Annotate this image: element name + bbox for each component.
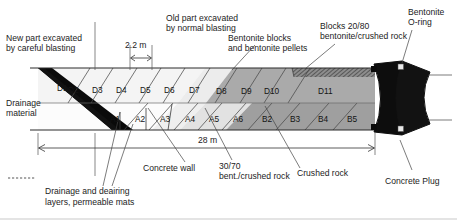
blocks-2080-band <box>292 68 375 77</box>
cell-label-a2: A2 <box>135 115 145 124</box>
cell-label-d4: D4 <box>116 86 127 95</box>
cell-label-a3: A3 <box>160 115 170 124</box>
cell-label-d2: D2 <box>68 86 79 95</box>
callout-concrete-plug: Concrete Plug <box>385 176 439 187</box>
callout-blocks-2080-line2: bentonite/crushed rock <box>320 31 407 42</box>
cell-label-d10: D10 <box>264 87 279 96</box>
callout-bent-3070-line2: bent./crushed rock <box>219 171 290 182</box>
cell-label-b3: B3 <box>290 115 300 124</box>
bentonite-o-ring-top <box>398 64 404 70</box>
callout-new-part-line1: New part excavated <box>6 33 82 44</box>
callout-drainage-material-line2: material <box>6 108 37 119</box>
callout-drainage-deairing-line1: Drainage and deairing <box>45 186 130 197</box>
cell-label-a1: A1 <box>110 115 120 124</box>
cell-label-d3: D3 <box>92 86 103 95</box>
cell-label-b2: B2 <box>262 115 272 124</box>
cell-label-d6: D6 <box>164 86 175 95</box>
callout-blocks-2080-line1: Blocks 20/80 <box>320 21 369 32</box>
dim-28m <box>39 145 375 152</box>
figure-canvas: New part excavated by careful blasting O… <box>0 0 457 223</box>
callout-drainage-material-line1: Drainage <box>6 98 41 109</box>
concrete-plug-shape <box>371 61 430 135</box>
callout-bentonite-oring-line1: Bentonite <box>408 7 444 18</box>
callout-bentonite-blocks-line2: and bentonite pellets <box>228 43 307 54</box>
cell-label-b4: B4 <box>318 115 328 124</box>
cell-label-a4: A4 <box>185 115 195 124</box>
cell-label-a6: A6 <box>233 115 243 124</box>
cell-label-d1: D1 <box>57 84 68 93</box>
dim-label-2-2m: 2.2 m <box>125 40 147 50</box>
callout-bentonite-oring-line2: O-ring <box>408 17 432 28</box>
callout-new-part-line2: by careful blasting <box>6 43 75 54</box>
dim-2-2m <box>131 55 152 61</box>
cell-label-b5: B5 <box>347 115 357 124</box>
cell-label-d9: D9 <box>241 87 252 96</box>
callout-crushed-rock: Crushed rock <box>297 168 348 179</box>
cell-label-d5: D5 <box>140 86 151 95</box>
cell-label-d8: D8 <box>216 87 227 96</box>
callout-concrete-wall: Concrete wall <box>143 163 195 174</box>
bentonite-o-ring-bottom <box>398 126 404 132</box>
dim-label-28m: 28 m <box>198 135 217 145</box>
cell-label-d7: D7 <box>189 86 200 95</box>
callout-drainage-deairing-line2: layers, permeable mats <box>45 197 134 208</box>
callout-old-part-line1: Old part excavated <box>166 13 238 24</box>
callout-bentonite-blocks-line1: Bentonite blocks <box>228 33 291 44</box>
callout-bent-3070-line1: 30/70 <box>219 161 241 172</box>
cell-label-d11: D11 <box>318 87 333 96</box>
cell-label-a5: A5 <box>209 115 219 124</box>
callout-old-part-line2: by normal blasting <box>166 23 236 34</box>
